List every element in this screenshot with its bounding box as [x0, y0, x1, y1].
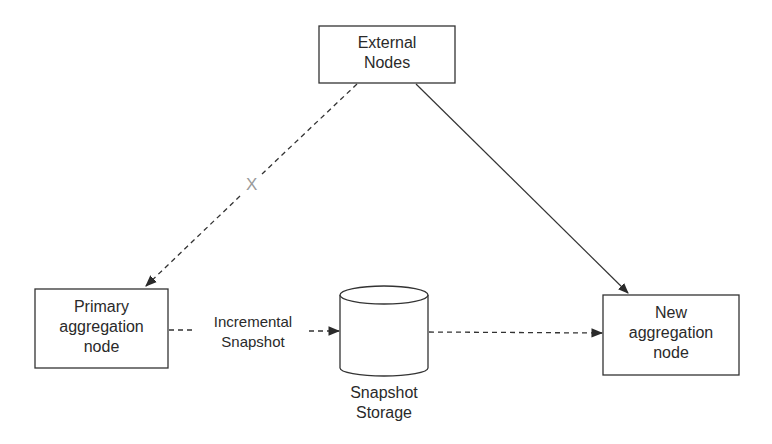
blocked-x-marker: X: [246, 175, 257, 195]
new-node-label: New aggregation node: [603, 303, 739, 363]
storage-cylinder-icon: [340, 286, 428, 376]
external-nodes-label: External Nodes: [319, 33, 455, 73]
edge-external-to-primary: [262, 84, 357, 174]
edge-external-to-primary-lower: [146, 196, 240, 286]
storage-label: Snapshot Storage: [334, 383, 434, 423]
primary-node-label: Primary aggregation node: [35, 297, 168, 357]
incremental-snapshot-label: Incremental Snapshot: [198, 312, 308, 352]
edge-external-to-new: [416, 84, 628, 293]
edge-storage-to-new: [429, 332, 602, 333]
